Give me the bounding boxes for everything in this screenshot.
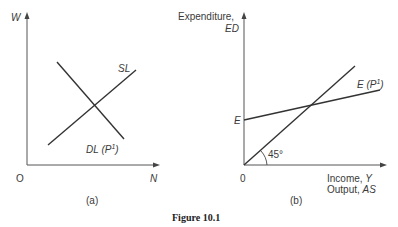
panel-a-origin-label: O <box>16 173 24 184</box>
arrow-right-icon <box>153 163 160 168</box>
income-axis-label: Income, Y <box>327 173 373 184</box>
intercept-e-label: E <box>234 115 241 126</box>
w-axis-label: W <box>11 12 22 23</box>
e-curve-label: E (P1) <box>357 78 384 90</box>
sl-label: SL <box>118 63 130 74</box>
panel-b: Expenditure, ED E E (P1) 45° 0 Income, Y… <box>178 11 387 206</box>
angle-label: 45° <box>268 149 283 160</box>
panel-a: W O N SL DL (P1) (a) <box>11 12 160 206</box>
arrow-up-icon <box>242 12 247 19</box>
sl-curve <box>48 70 136 145</box>
forty-five-degree-line <box>244 66 355 165</box>
ed-axis-label-line1: Expenditure, <box>178 11 234 22</box>
arrow-right-icon <box>380 163 387 168</box>
figure-10-1: W O N SL DL (P1) (a) Expenditure, ED E E… <box>0 0 398 227</box>
panel-b-label: (b) <box>290 195 302 206</box>
dl-label: DL (P1) <box>86 143 119 155</box>
figure-caption: Figure 10.1 <box>172 212 220 223</box>
dl-curve <box>57 62 124 139</box>
arrow-up-icon <box>25 12 30 19</box>
panel-a-label: (a) <box>86 195 98 206</box>
n-axis-label: N <box>150 173 158 184</box>
angle-arc <box>261 151 267 165</box>
ed-axis-label-line2: ED <box>225 23 239 34</box>
panel-b-origin-label: 0 <box>240 173 246 184</box>
output-axis-label: Output, AS <box>327 184 376 195</box>
